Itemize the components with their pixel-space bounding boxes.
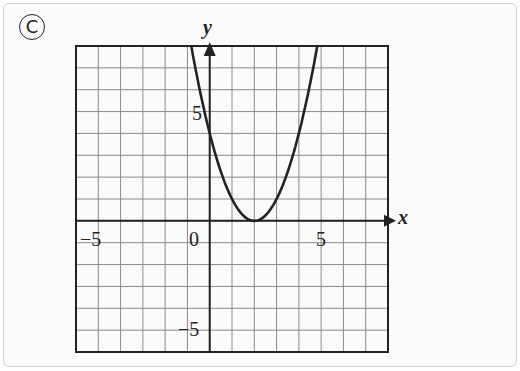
y-axis-label: y [203, 16, 212, 39]
x-tick-5: 5 [316, 228, 326, 251]
y-tick-neg5: −5 [178, 318, 199, 341]
origin-tick: 0 [189, 228, 199, 251]
chart-plot [0, 0, 520, 371]
x-axis-arrow-icon [384, 215, 396, 227]
y-tick-5: 5 [192, 102, 202, 125]
x-axis-label: x [398, 206, 408, 229]
y-axis-arrow-icon [204, 42, 216, 56]
x-tick-neg5: −5 [80, 228, 101, 251]
